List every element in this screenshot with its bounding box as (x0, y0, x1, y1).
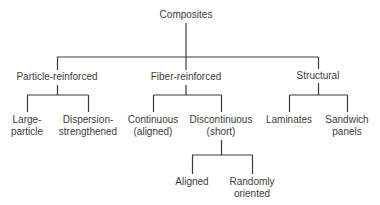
node-label-line2: (short) (190, 126, 253, 138)
node-particle-reinforced: Particle-reinforced (16, 71, 97, 83)
node-aligned: Aligned (175, 176, 208, 188)
node-label-line1: Discontinuous (190, 114, 253, 126)
node-composites: Composites (160, 9, 213, 21)
node-discontinuous-short: Discontinuous (short) (190, 114, 253, 137)
node-label-line2: (aligned) (128, 126, 179, 138)
node-sandwich-panels: Sandwich panels (325, 114, 368, 137)
node-label: Structural (297, 70, 340, 81)
node-label-line1: Dispersion- (59, 114, 117, 126)
node-continuous-aligned: Continuous (aligned) (128, 114, 179, 137)
node-label-line1: Randomly (229, 176, 274, 188)
node-label: Fiber-reinforced (151, 71, 222, 82)
node-label-line1: Aligned (175, 176, 208, 188)
node-label-line2: particle (11, 126, 43, 138)
node-randomly-oriented: Randomly oriented (229, 176, 274, 199)
node-label: Composites (160, 9, 213, 20)
node-label-line1: Continuous (128, 114, 179, 126)
node-laminates: Laminates (266, 114, 312, 126)
node-label-line2: panels (325, 126, 368, 138)
node-label-line1: Sandwich (325, 114, 368, 126)
node-label-line2: oriented (229, 188, 274, 200)
node-fiber-reinforced: Fiber-reinforced (151, 71, 222, 83)
node-label: Particle-reinforced (16, 71, 97, 82)
node-structural: Structural (297, 70, 340, 82)
node-label-line1: Laminates (266, 114, 312, 126)
node-label-line1: Large- (11, 114, 43, 126)
tree-connectors (0, 0, 380, 205)
node-dispersion-strengthened: Dispersion- strengthened (59, 114, 117, 137)
node-large-particle: Large- particle (11, 114, 43, 137)
node-label-line2: strengthened (59, 126, 117, 138)
